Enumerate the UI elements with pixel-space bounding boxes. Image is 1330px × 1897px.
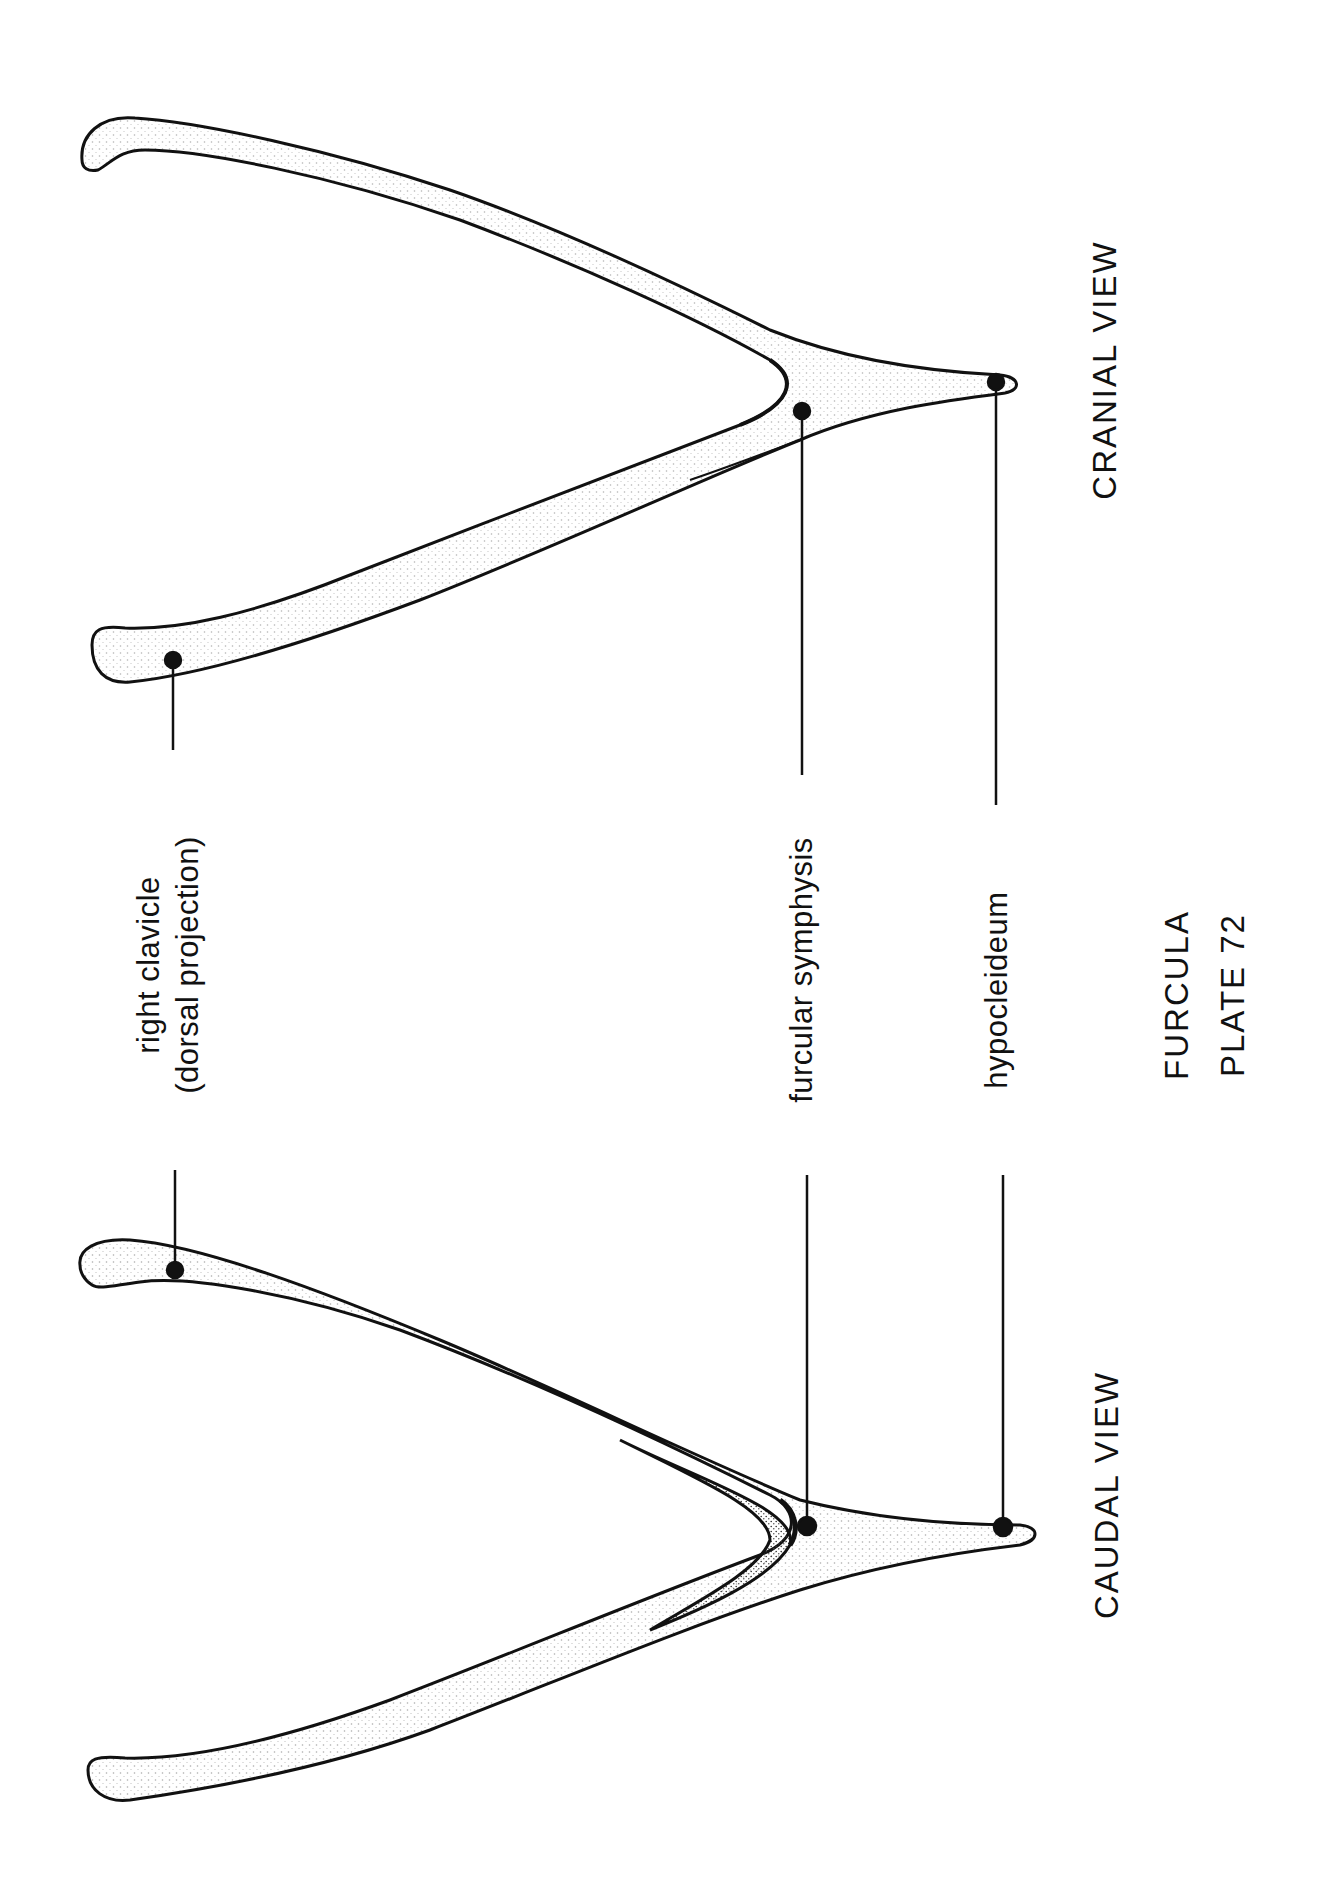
cranial-view-furcula	[82, 118, 1017, 682]
right-clavicle-label-line1: right clavicle	[130, 836, 169, 1094]
plate-canvas: right clavicle (dorsal projection) furcu…	[0, 0, 1330, 1897]
right-clavicle-label-line2: (dorsal projection)	[169, 836, 208, 1094]
furcular-symphysis-label: furcular symphysis	[783, 837, 822, 1103]
hypocleideum-label: hypocleideum	[978, 891, 1017, 1088]
cranial-view-label: CRANIAL VIEW	[1084, 240, 1125, 499]
plate-number: PLATE 72	[1205, 910, 1261, 1080]
caudal-view-furcula	[80, 1240, 1035, 1801]
leader-lines	[165, 374, 1012, 1536]
right-clavicle-label: right clavicle (dorsal projection)	[130, 836, 208, 1094]
caudal-view-label: CAUDAL VIEW	[1086, 1371, 1127, 1619]
plate-title-block: FURCULA PLATE 72	[1149, 910, 1261, 1080]
plate-title: FURCULA	[1149, 910, 1205, 1080]
